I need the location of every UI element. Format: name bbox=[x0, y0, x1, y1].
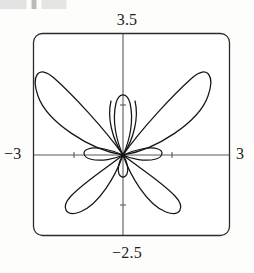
window-label-ymax: 3.5 bbox=[0, 12, 254, 28]
polar-curve-figure: 3.5 −2.5 −3 3 bbox=[0, 0, 254, 273]
window-label-xmax: 3 bbox=[236, 146, 244, 162]
plot-canvas bbox=[0, 0, 254, 273]
window-label-xmin: −3 bbox=[4, 146, 21, 162]
viewing-window-frame bbox=[34, 34, 230, 236]
window-label-ymin: −2.5 bbox=[0, 245, 254, 261]
